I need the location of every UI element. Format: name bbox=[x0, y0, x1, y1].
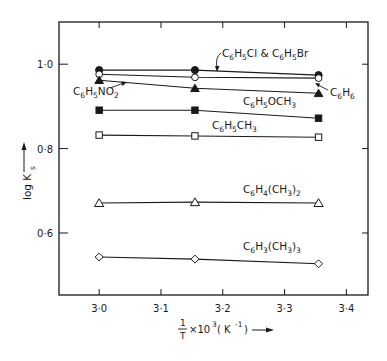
data-point bbox=[95, 253, 103, 261]
x-axis-arrow-icon bbox=[252, 328, 274, 333]
x-tick-label: 3·2 bbox=[215, 303, 231, 314]
data-point bbox=[315, 134, 321, 140]
series-filled-square bbox=[96, 107, 322, 121]
series-open-diamond bbox=[95, 253, 322, 268]
x-label-denominator: T bbox=[179, 331, 186, 341]
x-tick-label: 3·3 bbox=[277, 303, 293, 314]
y-tick-label: 0·6 bbox=[37, 228, 53, 239]
x-label-multiplier: ×10 bbox=[189, 324, 210, 335]
x-label-unit: ( K bbox=[217, 324, 231, 335]
x-tick-label: 3·4 bbox=[338, 303, 354, 314]
data-point bbox=[191, 255, 199, 263]
series-open-triangle bbox=[95, 198, 324, 207]
chart: 3·03·13·23·33·40·60·81·0 log K s 1 T ×10… bbox=[0, 0, 387, 361]
data-point bbox=[315, 75, 322, 82]
svg-text:C6H5OCH3: C6H5OCH3 bbox=[243, 95, 296, 110]
svg-text:C6H3(CH3)3: C6H3(CH3)3 bbox=[243, 240, 301, 255]
data-point bbox=[315, 115, 321, 121]
y-tick-label: 0·8 bbox=[37, 144, 53, 155]
label-c6h5ch3: C6H5CH3 bbox=[212, 119, 257, 134]
svg-text:C6H5Cl & C6H5Br: C6H5Cl & C6H5Br bbox=[222, 47, 309, 62]
data-point bbox=[192, 107, 198, 113]
svg-text:C6H5CH3: C6H5CH3 bbox=[212, 119, 257, 134]
label-c6h3-ch3-3: C6H3(CH3)3 bbox=[243, 240, 301, 255]
x-tick-label: 3·1 bbox=[153, 303, 169, 314]
data-point bbox=[95, 76, 104, 83]
series-open-square bbox=[96, 132, 322, 141]
plot-frame bbox=[59, 22, 368, 295]
data-point bbox=[96, 107, 102, 113]
series-open-circle bbox=[96, 71, 322, 82]
x-axis-label: 1 T ×10 3 ( K -1 ) bbox=[178, 318, 248, 341]
x-label-numerator: 1 bbox=[180, 318, 186, 328]
axis-ticks bbox=[59, 22, 368, 295]
x-label-unit-exponent: -1 bbox=[235, 320, 243, 329]
y-axis-label-main: log K bbox=[21, 173, 33, 200]
y-axis-arrow-icon bbox=[22, 142, 27, 172]
data-point bbox=[192, 74, 199, 81]
label-c6h5och3: C6H5OCH3 bbox=[243, 95, 296, 110]
label-c6h5no2: C6H5NO2 bbox=[73, 82, 127, 101]
y-tick-label: 1·0 bbox=[37, 59, 53, 70]
data-point bbox=[192, 133, 198, 139]
label-c6h5cl-c6h5br: C6H5Cl & C6H5Br bbox=[215, 47, 309, 72]
y-axis-label-sub: s bbox=[28, 166, 37, 170]
y-axis-label: log K s bbox=[21, 166, 37, 200]
data-point bbox=[191, 67, 198, 74]
data-point bbox=[315, 260, 323, 268]
svg-text:C6H6: C6H6 bbox=[330, 86, 355, 101]
label-c6h4-ch3-2: C6H4(CH3)2 bbox=[243, 183, 301, 198]
label-c6h6: C6H6 bbox=[315, 83, 355, 101]
x-tick-label: 3·0 bbox=[91, 303, 107, 314]
series-filled-triangle bbox=[95, 76, 323, 96]
data-point bbox=[96, 132, 102, 138]
x-label-unit-close: ) bbox=[244, 324, 248, 335]
svg-text:C6H4(CH3)2: C6H4(CH3)2 bbox=[243, 183, 301, 198]
